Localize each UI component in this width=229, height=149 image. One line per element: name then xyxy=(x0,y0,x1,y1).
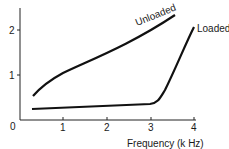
x-axis-label: Frequency (k Hz) xyxy=(127,138,204,149)
x-tick-4: 4 xyxy=(191,122,197,133)
x-tick-1: 1 xyxy=(60,122,66,133)
line-chart: 2 1 0 1 2 3 4 Unloaded Loaded Frequency … xyxy=(0,0,229,149)
x-tick-2: 2 xyxy=(104,122,110,133)
y-tick-1: 1 xyxy=(9,70,15,81)
x-tick-3: 3 xyxy=(148,122,154,133)
series-unloaded xyxy=(33,15,175,96)
label-loaded: Loaded xyxy=(197,23,229,34)
x-axis xyxy=(20,117,196,120)
x-tick-0: 0 xyxy=(10,121,16,132)
label-unloaded: Unloaded xyxy=(134,2,178,28)
series-loaded xyxy=(32,27,194,109)
y-tick-2: 2 xyxy=(9,25,15,36)
y-axis xyxy=(17,8,20,120)
